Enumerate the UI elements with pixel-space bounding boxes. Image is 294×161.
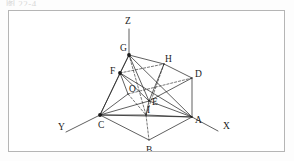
edge-G-H bbox=[129, 55, 164, 64]
page-top-caption: 图 22-4 bbox=[6, 0, 66, 6]
geometry-figure: Z G H F D O E I C A B Y X bbox=[9, 11, 284, 151]
y-axis-line bbox=[66, 115, 100, 132]
vertex-dot-G bbox=[127, 53, 131, 57]
vertex-label-Z: Z bbox=[125, 16, 131, 26]
edge-I-B-hidden bbox=[146, 115, 149, 140]
edge-F-A bbox=[120, 73, 192, 117]
vertex-label-C: C bbox=[98, 120, 104, 130]
edge-O-I-hidden bbox=[128, 94, 146, 115]
vertex-dot-C bbox=[98, 113, 102, 117]
edge-C-E bbox=[100, 101, 149, 115]
edge-H-D bbox=[164, 64, 192, 78]
vertex-label-group: Z G H F D O E I C A B Y X bbox=[58, 16, 230, 151]
vertex-label-A: A bbox=[195, 115, 202, 125]
vertex-label-G: G bbox=[120, 43, 127, 53]
vertex-dot-F bbox=[118, 71, 122, 75]
vertex-label-F: F bbox=[110, 66, 115, 76]
edge-O-C bbox=[100, 94, 128, 115]
vertex-label-H: H bbox=[165, 54, 172, 64]
edge-F-O bbox=[120, 73, 128, 94]
axis-label-X: X bbox=[223, 121, 230, 131]
vertex-label-D: D bbox=[195, 69, 202, 79]
figure-page: 图 22-4 bbox=[0, 0, 294, 161]
figure-frame: Z G H F D O E I C A B Y X bbox=[8, 10, 285, 152]
edge-C-B bbox=[100, 115, 149, 140]
vertex-label-I: I bbox=[147, 105, 150, 115]
edge-F-H-hidden bbox=[120, 64, 164, 73]
vertex-label-B: B bbox=[146, 145, 152, 151]
axis-label-Y: Y bbox=[58, 122, 65, 132]
vertex-label-O: O bbox=[129, 84, 136, 94]
vertex-label-E: E bbox=[152, 97, 158, 107]
edge-B-A bbox=[149, 117, 192, 140]
edge-G-E bbox=[129, 55, 149, 101]
